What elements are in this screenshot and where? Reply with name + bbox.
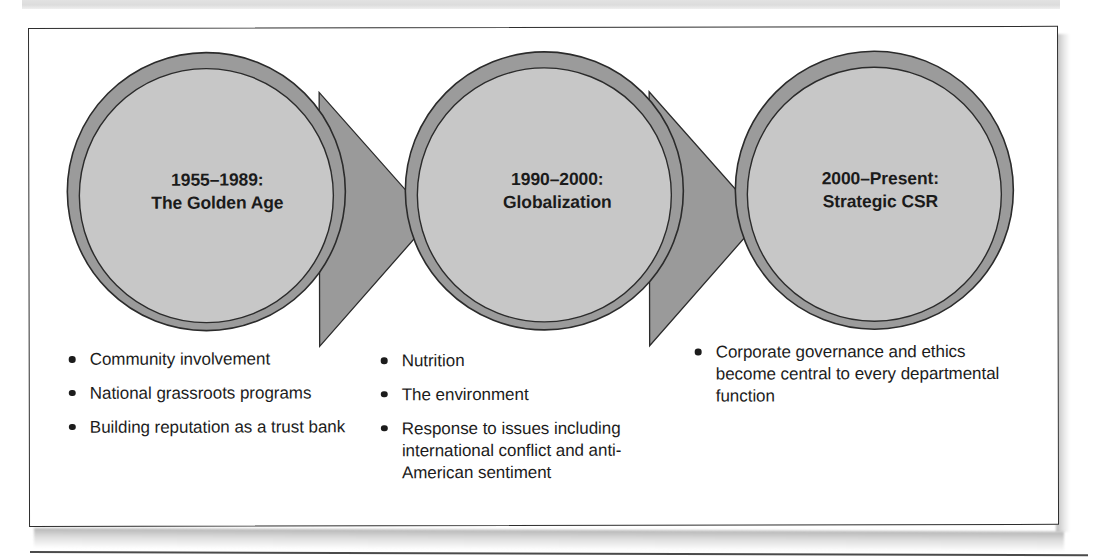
page-top-scan-band bbox=[22, 0, 1060, 9]
bullet-dot-icon bbox=[381, 425, 388, 432]
list-item-label: Corporate governance and ethics become c… bbox=[716, 342, 1000, 405]
bullet-dot-icon bbox=[381, 357, 388, 364]
list-item-label: Building reputation as a trust bank bbox=[90, 417, 345, 437]
bullet-dot-icon bbox=[69, 390, 76, 397]
bullet-list-golden-age: Community involvement National grassroot… bbox=[66, 348, 366, 450]
list-item: Response to issues including internation… bbox=[378, 418, 668, 484]
stage-circle-globalization bbox=[405, 52, 684, 331]
bullet-list-globalization: Nutrition The environment Response to is… bbox=[378, 350, 668, 496]
stage-bullet-lists: Community involvement National grassroot… bbox=[30, 347, 1060, 524]
stage-circle-golden-age bbox=[67, 52, 346, 331]
list-item-label: Response to issues including internation… bbox=[402, 419, 622, 482]
list-item: Corporate governance and ethics become c… bbox=[692, 341, 1002, 407]
list-item: Community involvement bbox=[66, 348, 366, 371]
list-item: Nutrition bbox=[378, 350, 668, 373]
bullet-dot-icon bbox=[69, 424, 76, 431]
frame-bottom-shadow bbox=[34, 528, 1064, 552]
list-item: Building reputation as a trust bank bbox=[66, 416, 366, 439]
diagram-frame: 1955–1989: The Golden Age 1990–2000: Glo… bbox=[28, 26, 1059, 527]
list-item: The environment bbox=[378, 384, 668, 407]
bullet-dot-icon bbox=[695, 349, 702, 356]
bullet-dot-icon bbox=[381, 391, 388, 398]
list-item-label: National grassroots programs bbox=[90, 383, 312, 402]
bullet-dot-icon bbox=[69, 356, 76, 363]
list-item-label: Nutrition bbox=[402, 351, 465, 370]
bullet-list-strategic-csr: Corporate governance and ethics become c… bbox=[692, 341, 1002, 407]
page-bottom-rule bbox=[30, 551, 1088, 556]
list-item: National grassroots programs bbox=[66, 382, 366, 405]
list-item-label: Community involvement bbox=[90, 349, 270, 368]
stage-circle-strategic-csr bbox=[735, 51, 1014, 330]
list-item-label: The environment bbox=[402, 385, 529, 404]
